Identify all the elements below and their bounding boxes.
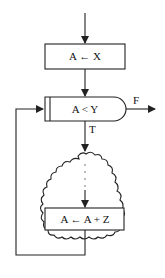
- assign-x-box: A ← X: [45, 44, 125, 69]
- condition-shape: A < Y: [45, 97, 126, 121]
- true-label: T: [89, 123, 96, 135]
- assign-x-label: A ← X: [69, 50, 101, 62]
- condition-label: A < Y: [72, 103, 99, 115]
- increment-label: A ← A + Z: [61, 213, 110, 225]
- false-label: F: [133, 94, 139, 106]
- flowchart-diagram: A ← X A < Y F T A ← A + Z: [0, 0, 165, 278]
- increment-box: A ← A + Z: [45, 208, 124, 230]
